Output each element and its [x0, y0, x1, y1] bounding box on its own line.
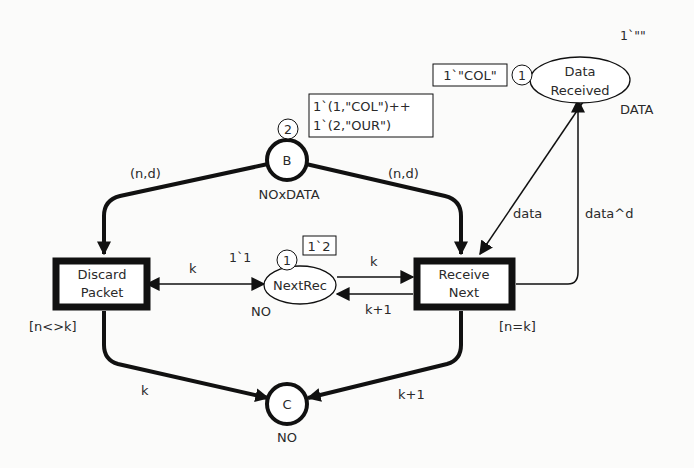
transition-discard-label-1: Discard: [78, 267, 127, 282]
place-b-marking: 1`(1,"COL")++ 1`(2,"OUR"): [309, 94, 433, 137]
transition-receive-label-2: Next: [449, 285, 479, 300]
arc-label-nextrec-receive: k: [370, 254, 378, 269]
place-nextrec-marking: 1`2: [303, 236, 336, 255]
arc-datarec-to-receive: [480, 102, 583, 254]
place-c[interactable]: C: [267, 384, 307, 424]
arc-label-discard-c: k: [141, 383, 149, 398]
place-data-received-initial: 1`"": [620, 28, 646, 43]
arc-receive-to-datarec: [516, 100, 578, 284]
transition-discard-packet[interactable]: Discard Packet: [56, 261, 147, 307]
place-nextrec-token-count: 1: [277, 250, 297, 270]
svg-text:1: 1: [518, 68, 526, 83]
place-data-received-token-count: 1: [512, 65, 532, 85]
place-nextrec-initial: 1`1: [229, 250, 251, 265]
place-nextrec-name: NextRec: [273, 278, 327, 293]
place-b-colorset: NOxDATA: [258, 187, 319, 202]
svg-text:1`2: 1`2: [307, 239, 330, 254]
arc-label-datarec-receive: data: [513, 206, 542, 221]
place-b-token-count: 2: [278, 119, 298, 139]
arc-label-b-discard: (n,d): [130, 166, 161, 181]
place-b-name: B: [283, 153, 292, 168]
place-data-received[interactable]: Data Received: [530, 57, 630, 103]
transition-receive-guard: [n=k]: [499, 319, 536, 334]
place-b[interactable]: B: [267, 140, 307, 180]
svg-text:2: 2: [284, 122, 292, 137]
place-c-colorset: NO: [277, 430, 297, 445]
transition-receive-next[interactable]: Receive Next: [417, 261, 512, 307]
transition-discard-guard: [n<>k]: [29, 319, 77, 334]
arc-b-to-discard: [104, 164, 268, 254]
place-data-received-name-1: Data: [564, 64, 595, 79]
svg-text:1: 1: [283, 253, 291, 268]
transition-discard-label-2: Packet: [81, 285, 124, 300]
transition-receive-label-1: Receive: [439, 267, 490, 282]
svg-text:1`(1,"COL")++: 1`(1,"COL")++: [313, 99, 411, 114]
place-data-received-marking: 1`"COL": [433, 64, 507, 86]
petri-net-diagram: B 2 NOxDATA 1`(1,"COL")++ 1`(2,"OUR") Ne…: [0, 0, 694, 468]
arc-label-receive-datarec: data^d: [585, 206, 633, 221]
arc-label-discard-nextrec: k: [189, 261, 197, 276]
place-data-received-colorset: DATA: [620, 102, 654, 117]
place-c-name: C: [282, 397, 291, 412]
place-nextrec[interactable]: NextRec: [264, 266, 336, 304]
arc-receive-to-c: [308, 311, 461, 398]
svg-text:1`(2,"OUR"): 1`(2,"OUR"): [313, 118, 391, 133]
arc-label-b-receive: (n,d): [388, 166, 419, 181]
place-data-received-name-2: Received: [550, 83, 609, 98]
arc-discard-to-c: [104, 311, 268, 398]
arc-label-receive-nextrec: k+1: [365, 302, 392, 317]
svg-text:1`"COL": 1`"COL": [443, 68, 496, 83]
arc-label-receive-c: k+1: [398, 387, 425, 402]
place-nextrec-colorset: NO: [251, 304, 271, 319]
